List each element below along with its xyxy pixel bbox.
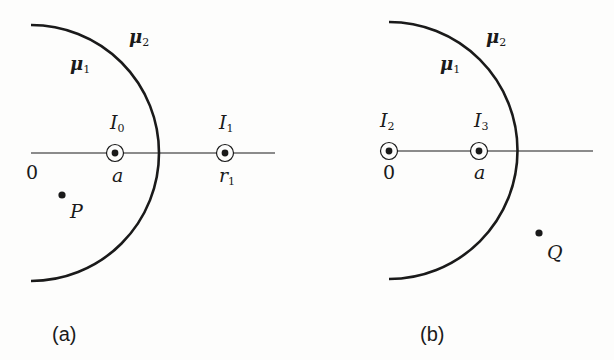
point-p-label: P (70, 202, 83, 221)
diagram-canvas (0, 0, 614, 360)
current-i3-label: I3 (474, 111, 489, 132)
caption-b: (b) (420, 324, 444, 344)
current-i0-label: I0 (110, 113, 125, 134)
mu2-label-b: μ2 (486, 28, 506, 48)
position-a-label: a (112, 166, 123, 185)
panel-a-graphics (31, 25, 275, 281)
origin-label-a: 0 (26, 163, 38, 182)
current-i1-label: I1 (219, 113, 234, 134)
point-q-dot (535, 229, 542, 236)
current-i2-label: I2 (380, 111, 395, 132)
position-r1-label: r1 (219, 166, 235, 187)
caption-a: (a) (52, 324, 76, 344)
mu1-label-b: μ1 (440, 55, 460, 75)
origin-label-b: 0 (383, 163, 395, 182)
current-i2-marker (381, 143, 398, 160)
current-i0-marker (107, 145, 124, 162)
current-i1-marker (217, 145, 234, 162)
mu1-label-a: μ1 (70, 55, 90, 75)
point-p-dot (58, 191, 65, 198)
point-q-label: Q (547, 243, 563, 262)
current-i3-marker (471, 143, 488, 160)
mu2-label-a: μ2 (129, 28, 149, 48)
position-a-label-b: a (474, 163, 485, 182)
